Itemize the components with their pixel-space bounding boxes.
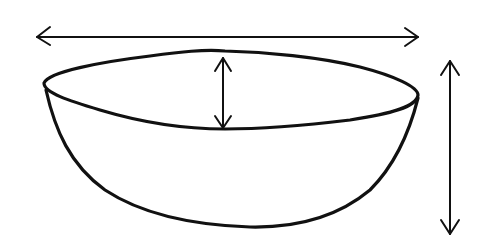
diagram-canvas xyxy=(0,0,483,245)
bowl-dimension-diagram xyxy=(0,0,483,245)
height-dimension-arrow xyxy=(441,61,459,234)
rim-depth-dimension-arrow xyxy=(215,58,231,128)
width-dimension-arrow xyxy=(37,27,418,46)
